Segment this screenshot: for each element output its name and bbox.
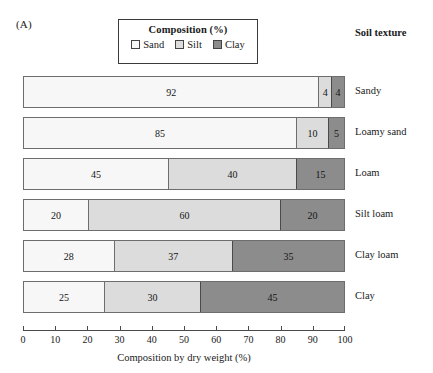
bar-segment-clay: 4 <box>331 77 344 107</box>
bar-segment-clay: 45 <box>200 282 344 312</box>
row-label-clay-loam: Clay loam <box>355 249 398 260</box>
bar-segment-silt: 37 <box>114 241 232 271</box>
x-axis-tick-label: 50 <box>179 334 189 345</box>
legend-box: Composition (%) SandSiltClay <box>118 19 258 64</box>
row-label-sandy: Sandy <box>355 85 381 96</box>
x-axis-tick-label: 30 <box>115 334 125 345</box>
bar-row: 206020 <box>23 199 345 231</box>
segment-value-label: 4 <box>336 87 341 98</box>
x-axis-tick <box>313 326 314 331</box>
segment-value-label: 35 <box>283 251 293 262</box>
clay-swatch <box>213 40 222 49</box>
bar-row: 85105 <box>23 117 345 149</box>
x-axis-tick <box>55 326 56 331</box>
legend-label: Clay <box>225 39 245 50</box>
bar-segment-clay: 15 <box>296 159 344 189</box>
segment-value-label: 40 <box>228 169 238 180</box>
bar-segment-silt: 30 <box>104 282 200 312</box>
x-axis-tick <box>248 326 249 331</box>
bar-segment-sand: 45 <box>24 159 168 189</box>
bar-segment-sand: 25 <box>24 282 104 312</box>
bar-segment-clay: 20 <box>280 200 344 230</box>
segment-value-label: 28 <box>64 251 74 262</box>
x-axis-tick-label: 40 <box>147 334 157 345</box>
segment-value-label: 25 <box>59 292 69 303</box>
bar-segment-sand: 85 <box>24 118 296 148</box>
segment-value-label: 20 <box>51 210 61 221</box>
bar-row: 283735 <box>23 240 345 272</box>
silt-swatch <box>175 40 184 49</box>
x-axis-tick-label: 80 <box>276 334 286 345</box>
x-axis-tick <box>120 326 121 331</box>
figure-panel-a: (A) Composition (%) SandSiltClay Soil te… <box>0 0 433 373</box>
segment-value-label: 10 <box>308 128 318 139</box>
x-axis-tick-label: 100 <box>338 334 353 345</box>
row-label-silt-loam: Silt loam <box>355 208 393 219</box>
plot-area: 924485105454015206020283735253045 <box>23 76 345 322</box>
legend-entry-silt: Silt <box>175 39 202 50</box>
bar-row: 454015 <box>23 158 345 190</box>
x-axis-tick-label: 70 <box>243 334 253 345</box>
bar-segment-silt: 60 <box>88 200 280 230</box>
segment-value-label: 15 <box>316 169 326 180</box>
legend-label: Sand <box>143 39 164 50</box>
legend-label: Silt <box>187 39 202 50</box>
bar-segment-sand: 20 <box>24 200 88 230</box>
x-axis-tick <box>184 326 185 331</box>
segment-value-label: 5 <box>334 128 339 139</box>
x-axis-tick <box>281 326 282 331</box>
legend-title: Composition (%) <box>119 24 257 35</box>
segment-value-label: 20 <box>308 210 318 221</box>
segment-value-label: 60 <box>180 210 190 221</box>
sand-swatch <box>131 40 140 49</box>
x-axis-tick <box>152 326 153 331</box>
segment-value-label: 4 <box>323 87 328 98</box>
x-axis-title: Composition by dry weight (%) <box>23 352 345 363</box>
row-label-loamy-sand: Loamy sand <box>355 126 407 137</box>
segment-value-label: 92 <box>166 87 176 98</box>
bar-segment-sand: 28 <box>24 241 114 271</box>
segment-value-label: 37 <box>168 251 178 262</box>
x-axis-tick-label: 20 <box>82 334 92 345</box>
legend-entry-sand: Sand <box>131 39 164 50</box>
x-axis-tick <box>216 326 217 331</box>
bar-segment-silt: 4 <box>318 77 331 107</box>
x-axis-tick-label: 90 <box>308 334 318 345</box>
row-label-clay: Clay <box>355 290 375 301</box>
x-axis-tick-label: 0 <box>21 334 26 345</box>
segment-value-label: 45 <box>91 169 101 180</box>
column-header-soil-texture: Soil texture <box>355 27 406 38</box>
legend-entry-clay: Clay <box>213 39 245 50</box>
x-axis-tick-label: 60 <box>211 334 221 345</box>
bar-row: 253045 <box>23 281 345 313</box>
segment-value-label: 30 <box>148 292 158 303</box>
row-label-loam: Loam <box>355 167 380 178</box>
segment-value-label: 45 <box>268 292 278 303</box>
bar-segment-clay: 5 <box>328 118 344 148</box>
bar-segment-clay: 35 <box>232 241 344 271</box>
x-axis-tick <box>23 326 24 331</box>
panel-label: (A) <box>16 18 32 30</box>
x-axis-tick <box>344 326 345 331</box>
legend-items: SandSiltClay <box>119 39 257 50</box>
x-axis-tick-label: 10 <box>50 334 60 345</box>
x-axis-tick <box>87 326 88 331</box>
bar-row: 9244 <box>23 76 345 108</box>
segment-value-label: 85 <box>155 128 165 139</box>
bar-segment-silt: 40 <box>168 159 296 189</box>
bar-segment-silt: 10 <box>296 118 328 148</box>
bar-segment-sand: 92 <box>24 77 318 107</box>
x-axis-line <box>23 330 345 331</box>
